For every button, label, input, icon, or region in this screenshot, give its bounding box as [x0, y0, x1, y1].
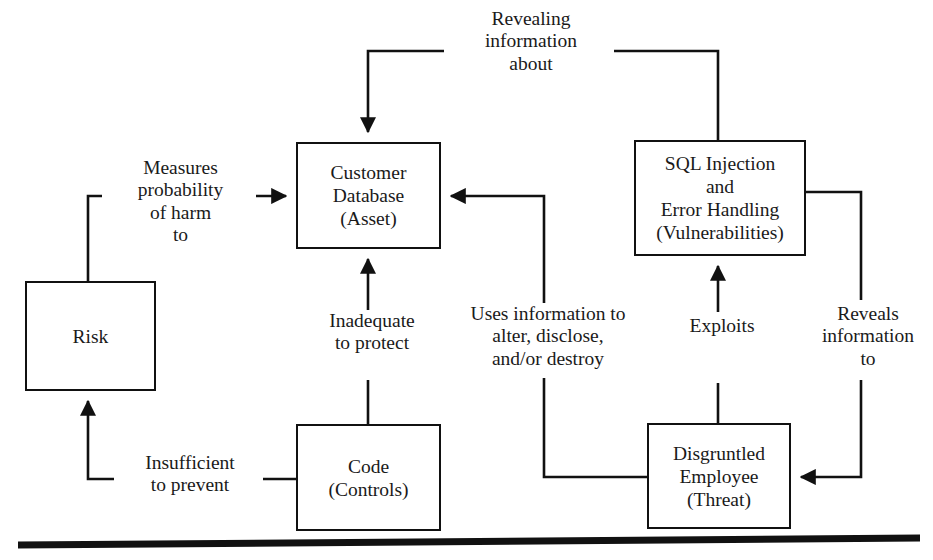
- bottom-rule: [18, 538, 920, 545]
- edge-label-measures-probability-of-harm-to: Measures probability of harm to: [105, 157, 256, 247]
- node-risk[interactable]: Risk: [25, 281, 156, 391]
- edge-label-inadequate-to-protect: Inadequate to protect: [300, 310, 444, 355]
- edge-label-exploits: Exploits: [669, 315, 775, 337]
- edge-reveals-information-lower: [801, 380, 861, 477]
- node-disgruntled-employee[interactable]: Disgruntled Employee (Threat): [647, 423, 791, 529]
- node-customer-database[interactable]: Customer Database (Asset): [296, 142, 441, 249]
- edge-label-revealing-information-about: Revealing information about: [448, 8, 614, 75]
- node-code-label: Code (Controls): [328, 455, 408, 501]
- edge-uses-information-upper: [451, 196, 544, 305]
- edge-label-uses-information-to-alter-disclose-destroy: Uses information to alter, disclose, and…: [452, 303, 644, 370]
- edge-label-reveals-information-to: Reveals information to: [803, 303, 933, 370]
- edge-measures-probability-left: [88, 196, 102, 281]
- edge-reveals-information-upper: [806, 192, 861, 300]
- edge-revealing-information-about: [612, 51, 718, 140]
- edge-label-insufficient-to-prevent: Insufficient to prevent: [117, 452, 263, 497]
- node-sql-injection-label: SQL Injection and Error Handling (Vulner…: [656, 152, 784, 244]
- node-sql-injection[interactable]: SQL Injection and Error Handling (Vulner…: [634, 140, 806, 256]
- node-code[interactable]: Code (Controls): [296, 424, 441, 531]
- edge-insufficient-to-prevent-left: [88, 401, 114, 479]
- node-risk-label: Risk: [73, 325, 109, 348]
- edge-revealing-information-about-tail: [368, 51, 444, 132]
- edge-uses-information-lower: [544, 378, 647, 477]
- node-disgruntled-employee-label: Disgruntled Employee (Threat): [673, 442, 765, 511]
- diagram-canvas: Customer Database (Asset) SQL Injection …: [0, 0, 933, 560]
- node-customer-database-label: Customer Database (Asset): [331, 161, 407, 230]
